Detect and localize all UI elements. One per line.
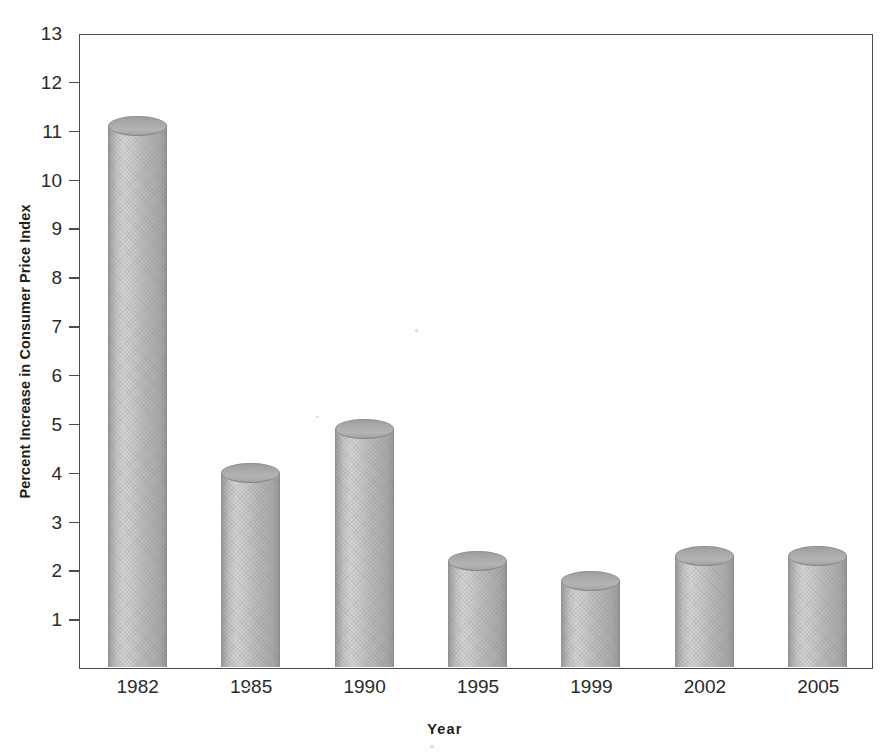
y-tick-mark (69, 228, 79, 230)
y-tick-label: 7 (51, 314, 62, 340)
bar-cylinder-body (788, 556, 847, 667)
bar-cylinder-body (108, 126, 167, 667)
x-tick-label: 1995 (457, 676, 499, 698)
y-tick-mark (69, 570, 79, 572)
x-tick-label: 2005 (797, 676, 839, 698)
bar-cylinder-body (675, 556, 734, 667)
bar-cylinder-top (221, 463, 280, 483)
bar-chart-figure: Percent Increase in Consumer Price Index… (0, 0, 890, 753)
bar-1990 (335, 419, 394, 667)
y-tick-label: 11 (42, 119, 62, 145)
y-tick-mark (69, 82, 79, 84)
y-tick-label: 5 (51, 412, 62, 438)
bar-cylinder-body (335, 429, 394, 667)
y-tick-label: 13 (41, 21, 62, 47)
y-tick-mark (69, 619, 79, 621)
y-tick-mark (69, 424, 79, 426)
bar-cylinder-top (448, 551, 507, 571)
y-tick-label: 9 (51, 216, 62, 242)
y-tick-mark (69, 522, 79, 524)
y-tick-label: 10 (41, 168, 62, 194)
y-tick-label: 3 (51, 510, 62, 536)
bar-cylinder-top (108, 116, 167, 136)
bar-cylinder-top (335, 419, 394, 439)
x-tick-label: 1999 (570, 676, 612, 698)
scan-speck (430, 745, 434, 748)
y-axis-title: Percent Increase in Consumer Price Index (14, 34, 36, 669)
bar-1985 (221, 463, 280, 667)
x-axis-title: Year (0, 721, 890, 737)
y-tick-label: 1 (51, 607, 62, 633)
y-tick-mark (69, 375, 79, 377)
bar-cylinder-body (561, 581, 620, 667)
scan-speck (316, 416, 319, 418)
bar-1999 (561, 571, 620, 667)
bar-cylinder-body (221, 473, 280, 667)
bar-1982 (108, 116, 167, 667)
bar-cylinder-top (561, 571, 620, 591)
plot-area (79, 34, 873, 669)
bar-1995 (448, 551, 507, 667)
x-tick-label: 1982 (117, 676, 159, 698)
bar-cylinder-body (448, 561, 507, 667)
x-tick-label: 2002 (684, 676, 726, 698)
scan-speck (415, 329, 418, 332)
bar-2002 (675, 546, 734, 667)
y-tick-label: 2 (51, 558, 62, 584)
y-tick-label: 6 (51, 363, 62, 389)
y-tick-mark (69, 277, 79, 279)
y-tick-mark (69, 131, 79, 133)
y-tick-label: 4 (51, 461, 62, 487)
x-tick-label: 1985 (230, 676, 272, 698)
y-tick-mark (69, 326, 79, 328)
y-tick-label: 8 (51, 265, 62, 291)
bar-cylinder-top (675, 546, 734, 566)
y-tick-mark (69, 180, 79, 182)
y-tick-label: 12 (41, 70, 62, 96)
bar-2005 (788, 546, 847, 667)
y-tick-mark (69, 473, 79, 475)
x-tick-label: 1990 (343, 676, 385, 698)
